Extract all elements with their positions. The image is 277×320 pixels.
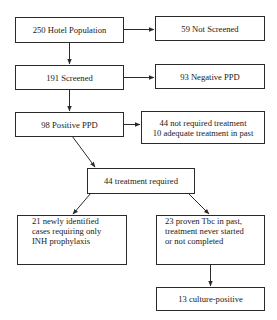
node-line: INH prophylaxis <box>32 236 90 246</box>
node-line: 23 proven Tbc in past, <box>165 216 242 226</box>
node-label: 13 culture-positive <box>178 294 243 304</box>
node-line: 10 adequate treatment in past <box>153 128 254 138</box>
arrow-treatment-to-proven-tbc <box>188 193 209 214</box>
node-hotel-population: 250 Hotel Population <box>15 17 124 43</box>
node-positive-ppd: 98 Positive PPD <box>15 112 124 137</box>
node-negative-ppd: 93 Negative PPD <box>155 64 265 89</box>
connector-lines <box>0 0 277 320</box>
node-line: treatment never started <box>165 226 244 236</box>
node-label: 44 treatment required <box>104 176 178 186</box>
node-not-screened: 59 Not Screened <box>155 16 265 41</box>
node-label: 59 Not Screened <box>181 24 238 34</box>
node-line: 21 newly identified <box>32 216 99 226</box>
node-newly-identified: 21 newly identified cases requiring only… <box>17 215 127 265</box>
node-label: 250 Hotel Population <box>33 25 107 35</box>
node-culture-positive: 13 culture-positive <box>156 287 265 311</box>
node-proven-tbc: 23 proven Tbc in past, treatment never s… <box>156 215 265 265</box>
node-treatment-required: 44 treatment required <box>87 168 195 194</box>
node-line: 44 not required treatment <box>159 118 246 128</box>
node-label: 191 Screened <box>46 73 93 83</box>
arrow-positive-to-treatment-required <box>72 136 95 167</box>
node-label: 93 Negative PPD <box>180 72 240 82</box>
arrow-treatment-to-newly-identified <box>73 193 91 214</box>
node-line: or not completed <box>165 236 223 246</box>
node-screened: 191 Screened <box>15 65 124 90</box>
node-not-required-treatment: 44 not required treatment 10 adequate tr… <box>141 111 265 144</box>
node-line: cases requiring only <box>32 226 101 236</box>
node-label: 98 Positive PPD <box>41 120 97 130</box>
